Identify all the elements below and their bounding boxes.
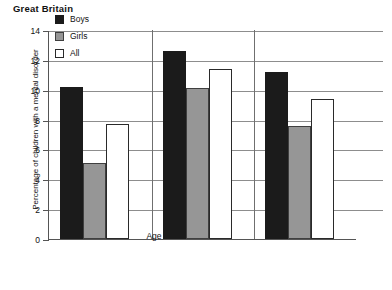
legend-swatch-girls-icon xyxy=(55,32,64,41)
gridline xyxy=(49,31,383,32)
legend-label-boys: Boys xyxy=(70,14,89,24)
y-axis-tick-label: 14 xyxy=(31,26,40,36)
category-separator xyxy=(254,30,255,239)
y-axis-tick-label: 4 xyxy=(35,175,40,185)
bar-girls-1116[interactable] xyxy=(186,88,209,239)
y-axis-tick-label: 6 xyxy=(35,145,40,155)
legend-swatch-all-icon xyxy=(55,49,64,58)
bar-all-510[interactable] xyxy=(106,124,129,239)
y-axis-tick-label: 8 xyxy=(35,116,40,126)
legend-item-girls: Girls xyxy=(55,28,89,44)
category-separator xyxy=(152,30,153,239)
chart-figure: Great Britain Percentage of children wit… xyxy=(0,0,392,290)
legend-label-girls: Girls xyxy=(70,31,87,41)
legend-label-all: All xyxy=(70,48,79,58)
bar-all-All[interactable] xyxy=(311,99,334,239)
plot-area: 02468101214 xyxy=(48,31,356,240)
bar-all-1116[interactable] xyxy=(209,69,232,239)
y-axis-tick-label: 2 xyxy=(35,205,40,215)
bar-boys-1116[interactable] xyxy=(163,51,186,239)
y-axis-tick xyxy=(43,91,49,92)
legend-item-boys: Boys xyxy=(55,11,89,27)
y-axis-tick xyxy=(43,240,49,241)
bar-boys-510[interactable] xyxy=(60,87,83,239)
legend-swatch-boys-icon xyxy=(55,15,64,24)
y-axis-tick xyxy=(43,180,49,181)
y-axis-tick xyxy=(43,31,49,32)
bar-boys-All[interactable] xyxy=(265,72,288,239)
x-axis-title: Age xyxy=(146,231,161,241)
y-axis-tick xyxy=(43,61,49,62)
legend-item-all: All xyxy=(55,45,89,61)
y-axis-tick-label: 12 xyxy=(31,56,40,66)
y-axis-tick xyxy=(43,121,49,122)
y-axis-tick xyxy=(43,150,49,151)
chart-legend: Boys Girls All xyxy=(55,11,89,62)
gridline xyxy=(49,61,383,62)
y-axis-tick-label: 10 xyxy=(31,86,40,96)
bar-girls-All[interactable] xyxy=(288,126,311,239)
y-axis-tick-label: 0 xyxy=(35,235,40,245)
y-axis-tick xyxy=(43,210,49,211)
bar-girls-510[interactable] xyxy=(83,163,106,239)
